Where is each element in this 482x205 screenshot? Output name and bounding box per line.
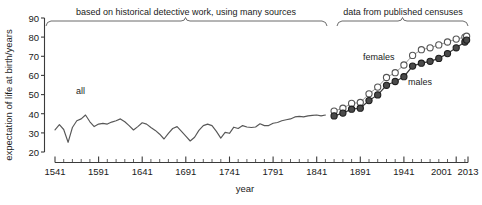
x-tick-labels: 1541 1591 1641 1691 1741 1791 1841 1891 …	[44, 166, 478, 177]
series-label-males: males	[408, 77, 433, 87]
annotation-published-censuses: data from published censuses	[343, 7, 463, 17]
series-all-line	[55, 115, 325, 142]
y-tick-label: 40	[28, 109, 39, 120]
y-tick-label: 60	[28, 70, 39, 81]
series-label-females: females	[363, 52, 395, 62]
brace-right	[337, 18, 468, 27]
x-tick-label: 1541	[44, 166, 65, 177]
chart-canvas: expectation of life at birth/years 90 80…	[0, 0, 482, 205]
series-females-line	[334, 36, 467, 111]
life-expectancy-chart: expectation of life at birth/years 90 80…	[0, 0, 482, 205]
x-axis	[55, 157, 468, 163]
x-tick-label: 1691	[175, 166, 196, 177]
series-label-all: all	[76, 86, 85, 96]
y-tick-label: 80	[28, 32, 39, 43]
x-tick-label: 1791	[263, 166, 284, 177]
x-axis-title: year	[236, 183, 254, 194]
y-tick-label: 20	[28, 147, 39, 158]
y-tick-labels: 90 80 70 60 50 40 30 20	[28, 13, 39, 158]
x-tick-label: 1641	[132, 166, 153, 177]
x-tick-label: 2013	[457, 166, 478, 177]
y-tick-label: 30	[28, 128, 39, 139]
y-tick-label: 50	[28, 89, 39, 100]
x-tick-label: 1741	[219, 166, 240, 177]
annotation-historical-sources: based on historical detective work, usin…	[76, 7, 297, 17]
brace-left	[46, 18, 327, 27]
x-tick-label: 1891	[350, 166, 371, 177]
x-tick-label: 2001	[431, 166, 452, 177]
y-tick-label: 90	[28, 13, 39, 24]
x-tick-label: 1841	[306, 166, 327, 177]
y-axis-title: expectation of life at birth/years	[3, 29, 14, 161]
x-tick-label: 1591	[88, 166, 109, 177]
series-females-markers	[331, 33, 470, 114]
y-tick-label: 70	[28, 51, 39, 62]
x-tick-label: 1941	[393, 166, 414, 177]
y-axis	[41, 18, 45, 152]
